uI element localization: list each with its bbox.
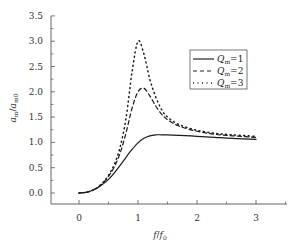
series-line-solid (79, 135, 256, 193)
x-axis-title: f/f0 (152, 230, 167, 241)
legend-label-qm1: Qm=1 (217, 54, 243, 65)
y-tick-label: 3.0 (29, 36, 44, 46)
x-tick-label: 2 (194, 213, 200, 223)
y-tick-label: 1.5 (29, 112, 44, 122)
y-tick-label: 1.0 (29, 137, 44, 147)
x-tick-label: 0 (76, 213, 82, 223)
y-axis-title: am/am0 (8, 93, 19, 122)
legend-label-qm3: Qm=3 (217, 78, 244, 89)
chart: 0.00.51.01.52.02.53.03.50123 Qm=1 Qm=2 Q… (0, 0, 295, 251)
y-tick-label: 2.5 (29, 62, 44, 72)
x-tick-label: 3 (253, 213, 259, 223)
x-tick-label: 1 (135, 213, 141, 223)
axis-ticks: 0.00.51.01.52.02.53.03.50123 (29, 11, 286, 223)
y-tick-label: 3.5 (29, 11, 44, 21)
y-tick-label: 2.0 (29, 87, 44, 97)
legend: Qm=1 Qm=2 Qm=3 (190, 50, 247, 89)
y-tick-label: 0.0 (29, 188, 44, 198)
plot-axes (51, 16, 287, 204)
legend-label-qm2: Qm=2 (217, 66, 243, 77)
y-tick-label: 0.5 (29, 163, 44, 173)
series-line-dashed (79, 88, 256, 193)
